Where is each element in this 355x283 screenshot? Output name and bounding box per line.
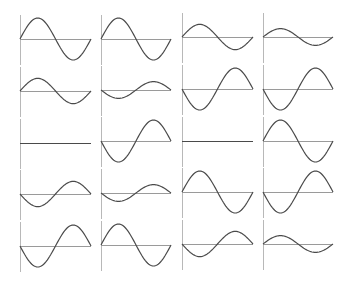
panel-r4c4 bbox=[263, 168, 333, 218]
sine-wave-grid-chart bbox=[0, 0, 355, 283]
panel-r4c3 bbox=[182, 168, 253, 218]
panel-r2c1 bbox=[20, 67, 91, 117]
panel-r2c4 bbox=[263, 65, 333, 115]
panel-r1c3 bbox=[182, 13, 253, 63]
panel-r3c4 bbox=[263, 117, 333, 167]
panel-r1c4 bbox=[263, 13, 333, 63]
panel-r4c2 bbox=[101, 169, 171, 219]
panel-r1c1 bbox=[20, 15, 91, 65]
panel-r5c3 bbox=[182, 220, 253, 270]
panel-r2c3 bbox=[182, 65, 253, 115]
panel-r1c2 bbox=[101, 15, 171, 65]
panel-r5c1 bbox=[20, 222, 91, 272]
panel-r5c2 bbox=[101, 221, 171, 271]
panel-r5c4 bbox=[263, 220, 333, 270]
panel-r4c1 bbox=[20, 170, 91, 220]
panel-r3c2 bbox=[101, 117, 171, 167]
panel-r3c3 bbox=[182, 117, 253, 167]
panel-r3c1 bbox=[20, 119, 91, 169]
panel-r2c2 bbox=[101, 66, 171, 116]
